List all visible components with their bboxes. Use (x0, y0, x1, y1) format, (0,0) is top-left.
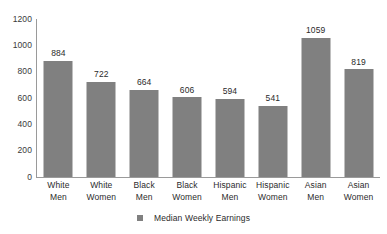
bar[interactable] (44, 61, 73, 177)
y-axis-tick-0: 0 (0, 173, 32, 182)
bar-value-label: 664 (137, 78, 151, 87)
bar[interactable] (215, 99, 244, 177)
bar[interactable] (258, 106, 287, 177)
x-axis-label-asian-women: AsianWomen (337, 180, 380, 203)
x-axis-category-labels: WhiteMenWhiteWomenBlackMenBlackWomenHisp… (37, 180, 380, 208)
y-axis-tick-800: 800 (0, 67, 32, 76)
y-axis-tick-600: 600 (0, 94, 32, 103)
bar-group: 664 (123, 19, 166, 177)
x-axis-label-hispanic-men: HispanicMen (209, 180, 252, 203)
bar-value-label: 541 (266, 94, 280, 103)
bar-chart: 120010008006004002000 884722664606594541… (0, 0, 387, 234)
x-axis-line (36, 177, 380, 178)
bar-value-label: 819 (351, 58, 365, 67)
x-axis-label-white-women: WhiteWomen (80, 180, 123, 203)
x-axis-label-hispanic-women: HispanicWomen (251, 180, 294, 203)
chart-legend: Median Weekly Earnings (0, 213, 387, 223)
bar[interactable] (130, 90, 159, 177)
bar-group: 819 (337, 19, 380, 177)
x-axis-label-black-women: BlackWomen (166, 180, 209, 203)
bar-value-label: 594 (223, 87, 237, 96)
bar[interactable] (173, 97, 202, 177)
bar[interactable] (87, 82, 116, 177)
bar-group: 722 (80, 19, 123, 177)
bar-group: 541 (251, 19, 294, 177)
y-axis-tick-labels: 120010008006004002000 (0, 0, 32, 234)
y-axis-tick-200: 200 (0, 146, 32, 155)
y-axis-tick-1000: 1000 (0, 41, 32, 50)
legend-label-median-weekly-earnings: Median Weekly Earnings (154, 213, 250, 223)
bar-value-label: 722 (94, 70, 108, 79)
y-axis-tick-400: 400 (0, 120, 32, 129)
bar[interactable] (301, 38, 330, 177)
bar-value-label: 606 (180, 86, 194, 95)
x-axis-label-white-men: WhiteMen (37, 180, 80, 203)
bar-value-label: 884 (51, 49, 65, 58)
y-axis-tick-1200: 1200 (0, 15, 32, 24)
bar-group: 594 (209, 19, 252, 177)
bar[interactable] (344, 69, 373, 177)
x-axis-label-asian-men: AsianMen (294, 180, 337, 203)
bar-group: 884 (37, 19, 80, 177)
bar-value-label: 1059 (306, 26, 325, 35)
plot-area: 8847226646065945411059819 (37, 19, 380, 177)
bar-group: 1059 (294, 19, 337, 177)
x-axis-label-black-men: BlackMen (123, 180, 166, 203)
bar-group: 606 (166, 19, 209, 177)
legend-swatch-median-weekly-earnings (137, 215, 143, 221)
